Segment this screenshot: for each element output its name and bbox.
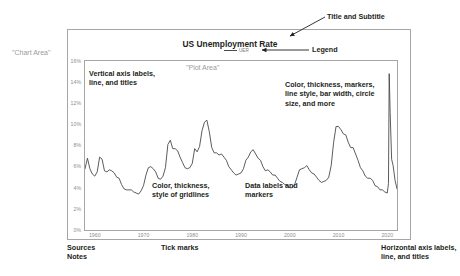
x-axis-tick-2000: 2000 (284, 232, 296, 238)
callout-data-labels: Data labels and markers (245, 181, 317, 200)
y-axis-tick-2%: 2% (74, 206, 82, 212)
y-axis-tick-labels: 0%2%4%6%8%10%12%14%16% (60, 56, 81, 236)
x-axis-tick-1970: 1970 (138, 232, 150, 238)
callout-legend: Legend (312, 45, 372, 54)
x-axis-tick-1980: 1980 (186, 232, 198, 238)
callout-gridlines: Color, thickness, style of gridlines (152, 181, 232, 200)
y-axis-tick-4%: 4% (74, 185, 82, 191)
callout-vertical-axis: Vertical axis labels, line, and titles (89, 69, 189, 88)
callout-series-style: Color, thickness, markers, line style, b… (285, 80, 397, 108)
y-axis-tick-8%: 8% (74, 142, 82, 148)
x-axis-tick-1990: 1990 (235, 232, 247, 238)
x-axis-tick-1960: 1960 (89, 232, 101, 238)
callout-title-and-subtitle: Title and Subtitle (327, 12, 447, 21)
callout-tick-marks: Tick marks (161, 243, 221, 252)
label-plot-area: "Plot Area" (186, 64, 246, 71)
x-axis-tick-2020: 2020 (381, 232, 393, 238)
legend-line-swatch-uer (224, 50, 237, 51)
y-axis-tick-10%: 10% (71, 121, 81, 127)
x-axis-tick-2010: 2010 (333, 232, 345, 238)
y-axis-tick-6%: 6% (74, 163, 82, 169)
y-axis-tick-16%: 16% (71, 58, 81, 64)
y-axis-tick-14%: 14% (71, 79, 81, 85)
chart-legend: UER (224, 45, 270, 55)
x-axis-tick-labels: 1960197019801990200020102020 (84, 232, 398, 242)
y-axis-tick-0%: 0% (74, 227, 82, 233)
annotated-chart-diagram: US Unemployment Rate UER 0%2%4%6%8%10%12… (0, 0, 460, 276)
y-axis-tick-12%: 12% (71, 100, 81, 106)
callout-sources-notes: Sources Notes (67, 243, 127, 262)
callout-horizontal-axis: Horizontal axis labels, line, and titles (381, 243, 460, 262)
legend-label-uer: UER (239, 48, 249, 53)
label-chart-area: "Chart Area" (12, 49, 68, 56)
